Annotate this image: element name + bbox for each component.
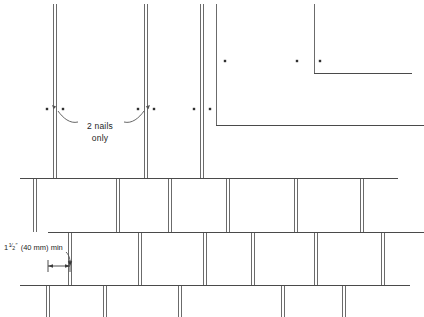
dimension-arrowhead-left [48,264,53,268]
nail-4 [153,108,155,110]
nail-1 [46,108,48,110]
vertical-joints-group [33,4,384,317]
leader-arrowhead-left [52,105,56,109]
nail-9 [319,60,321,62]
nail-5 [193,108,195,110]
leader-left [58,111,78,122]
dimension-label: 11⁄2″ (40 mm) min [4,242,63,252]
shingle-detail-svg: 2 nails only 11⁄2″ (40 mm) min [0,0,424,317]
nail-2 [62,108,64,110]
nails-annotation: 2 nails only [87,121,113,143]
nail-3 [137,108,139,110]
dimension-annotation: 11⁄2″ (40 mm) min [4,242,72,272]
technical-drawing-canvas: 2 nails only 11⁄2″ (40 mm) min [0,0,424,317]
dimension-arrowhead-right [65,264,70,268]
nail-7 [224,60,226,62]
nail-6 [209,108,211,110]
leader-right [124,111,144,122]
nail-8 [296,60,298,62]
nails-note-line1: 2 nails [87,121,113,131]
leader-lines-group [52,105,150,122]
nail-dots-group [46,60,321,110]
nails-note-line2: only [92,133,109,143]
